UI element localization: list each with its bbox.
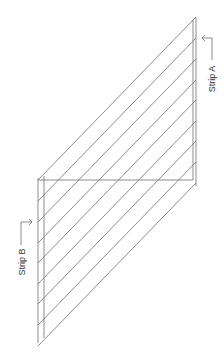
strip-a-label: Strip A (207, 66, 217, 93)
strip-a-arrow-line (202, 38, 212, 60)
diagonal-line (38, 121, 196, 284)
diagonal-line (38, 141, 196, 304)
diagonal-line (38, 162, 196, 325)
strip-a-callout: Strip A (202, 35, 217, 92)
diagonal-lines (38, 17, 196, 346)
diagonal-line (38, 183, 196, 346)
strip-diagram: Strip A Strip B (0, 0, 224, 359)
diagonal-line (38, 59, 196, 222)
strip-b-label: Strip B (17, 248, 27, 275)
diagonal-line (38, 100, 196, 263)
diagonal-line (38, 80, 196, 243)
diagonal-line (38, 38, 196, 201)
strip-b-callout: Strip B (17, 219, 32, 276)
strip-b-arrow-line (21, 222, 32, 245)
diagonal-line (38, 17, 196, 180)
